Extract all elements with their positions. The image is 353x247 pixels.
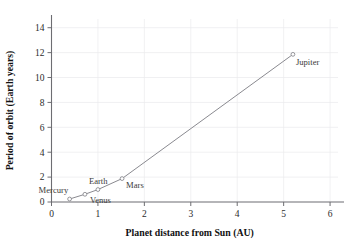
y-tick-label: 8	[40, 98, 45, 108]
vertical-gridlines	[98, 19, 330, 202]
planet-orbit-chart: 02468101214 0123456 MercuryVenusEarthMar…	[0, 0, 353, 247]
y-tick-label: 14	[35, 23, 45, 33]
y-tick-label: 2	[40, 172, 45, 182]
x-tick-label: 1	[96, 209, 101, 219]
data-point-marker	[96, 188, 100, 192]
x-tick-label: 4	[235, 209, 240, 219]
planet-label-mars: Mars	[126, 180, 144, 190]
planet-label-earth: Earth	[89, 176, 108, 186]
planet-label-venus: Venus	[90, 195, 112, 205]
x-tick-label: 0	[49, 209, 54, 219]
y-tick-label: 10	[35, 73, 45, 83]
y-tick-label: 12	[35, 48, 45, 58]
planet-point-labels: MercuryVenusEarthMarsJupiter	[39, 57, 320, 205]
y-axis-ticks: 02468101214	[35, 23, 52, 207]
y-tick-label: 6	[40, 123, 45, 133]
axis-spines	[52, 15, 345, 202]
y-tick-label: 4	[40, 148, 45, 158]
x-tick-label: 5	[281, 209, 286, 219]
data-point-marker	[291, 52, 295, 56]
data-point-marker	[120, 177, 124, 181]
x-tick-label: 3	[188, 209, 193, 219]
y-tick-label: 0	[40, 197, 45, 207]
horizontal-gridlines	[52, 28, 339, 177]
x-tick-label: 6	[328, 209, 333, 219]
data-point-marker	[83, 192, 87, 196]
y-axis-title: Period of orbit (Earth years)	[4, 51, 16, 171]
planet-label-mercury: Mercury	[39, 185, 69, 195]
x-tick-label: 2	[142, 209, 147, 219]
data-point-marker	[68, 197, 72, 201]
chart-plot-area: 02468101214 0123456 MercuryVenusEarthMar…	[0, 0, 353, 247]
planet-label-jupiter: Jupiter	[296, 57, 320, 67]
x-axis-title: Planet distance from Sun (AU)	[126, 227, 254, 239]
